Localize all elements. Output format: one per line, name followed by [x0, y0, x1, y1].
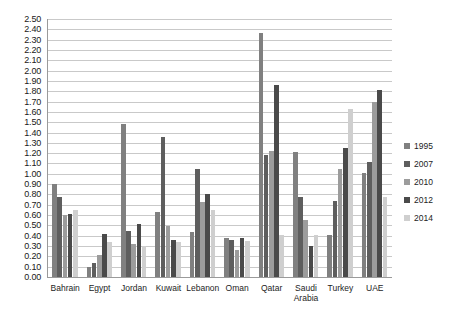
bar	[176, 242, 181, 277]
y-tick-label: 1.50	[24, 118, 41, 127]
legend-label: 2010	[414, 178, 433, 187]
bar	[166, 226, 171, 277]
bar-group	[48, 19, 82, 277]
bar	[348, 109, 353, 277]
legend-item[interactable]: 2012	[404, 191, 459, 209]
bar	[200, 202, 205, 277]
bar	[121, 124, 126, 277]
y-tick-label: 1.40	[24, 128, 41, 137]
y-tick-label: 0.50	[24, 221, 41, 230]
bar	[240, 238, 245, 277]
legend-item[interactable]: 2007	[404, 155, 459, 173]
legend-item[interactable]: 2010	[404, 173, 459, 191]
bar	[338, 169, 343, 277]
legend-swatch-icon	[404, 215, 410, 221]
bar-group	[323, 19, 357, 277]
bar-group	[358, 19, 392, 277]
y-tick-label: 1.70	[24, 97, 41, 106]
legend: 19952007201020122014	[404, 137, 459, 227]
gridline	[48, 277, 392, 278]
bar-group	[186, 19, 220, 277]
bar	[274, 85, 279, 277]
y-tick-label: 2.30	[24, 35, 41, 44]
bar	[314, 235, 319, 277]
x-axis-category-labels: BahrainEgyptJordanKuwaitLebanonOmanQatar…	[48, 283, 392, 319]
y-tick-label: 0.10	[24, 262, 41, 271]
y-tick-label: 2.00	[24, 66, 41, 75]
bar	[87, 267, 92, 277]
bar	[245, 241, 250, 277]
x-tick-label: Saudi Arabia	[289, 283, 323, 303]
y-tick-label: 1.60	[24, 107, 41, 116]
bar	[137, 224, 142, 277]
bar	[327, 235, 332, 277]
y-tick-label: 1.90	[24, 76, 41, 85]
bar	[102, 234, 107, 277]
y-tick-label: 0.30	[24, 242, 41, 251]
bar	[383, 197, 388, 277]
bar	[195, 169, 200, 277]
bar	[171, 240, 176, 277]
legend-item[interactable]: 1995	[404, 137, 459, 155]
bar	[303, 220, 308, 277]
bar	[372, 102, 377, 277]
legend-label: 2007	[414, 160, 433, 169]
bar-group	[289, 19, 323, 277]
y-tick-label: 0.70	[24, 200, 41, 209]
bar	[190, 232, 195, 277]
bar	[52, 184, 57, 277]
bar	[68, 214, 73, 277]
bar	[155, 212, 160, 277]
bar	[211, 210, 216, 277]
bar	[264, 155, 269, 277]
bars-layer	[48, 19, 392, 277]
legend-label: 2012	[414, 196, 433, 205]
bar	[309, 246, 314, 277]
y-axis-tick-labels: 2.502.402.302.202.102.001.901.801.701.60…	[0, 19, 44, 278]
bar	[142, 246, 147, 277]
bar	[279, 235, 284, 277]
bar	[269, 151, 274, 277]
bar	[205, 194, 210, 277]
bar-group	[117, 19, 151, 277]
bar	[367, 162, 372, 277]
y-tick-label: 0.00	[24, 273, 41, 282]
y-tick-label: 1.20	[24, 149, 41, 158]
bar	[333, 201, 338, 277]
bar	[63, 215, 68, 277]
bar	[73, 210, 78, 277]
x-tick-label: Lebanon	[186, 283, 220, 293]
legend-item[interactable]: 2014	[404, 209, 459, 227]
bar	[298, 197, 303, 277]
y-tick-label: 2.10	[24, 56, 41, 65]
bar	[362, 173, 367, 277]
y-tick-label: 0.80	[24, 190, 41, 199]
y-tick-label: 2.40	[24, 25, 41, 34]
legend-label: 1995	[414, 142, 433, 151]
legend-swatch-icon	[404, 197, 410, 203]
y-tick-label: 1.00	[24, 169, 41, 178]
bar	[259, 33, 264, 277]
legend-swatch-icon	[404, 143, 410, 149]
x-tick-label: Qatar	[254, 283, 288, 293]
bar-group	[82, 19, 116, 277]
x-tick-label: Egypt	[82, 283, 116, 293]
x-tick-label: Bahrain	[48, 283, 82, 293]
y-tick-label: 1.30	[24, 138, 41, 147]
x-tick-label: Oman	[220, 283, 254, 293]
bar	[293, 152, 298, 277]
x-tick-label: Jordan	[117, 283, 151, 293]
bar-group	[151, 19, 185, 277]
bar	[107, 242, 112, 277]
legend-label: 2014	[414, 214, 433, 223]
bar	[224, 238, 229, 277]
bar	[235, 250, 240, 277]
bar	[97, 255, 102, 277]
bar-chart: 2.502.402.302.202.102.001.901.801.701.60…	[0, 0, 461, 323]
bar	[343, 148, 348, 277]
bar	[229, 240, 234, 277]
x-tick-label: Kuwait	[151, 283, 185, 293]
y-tick-label: 0.20	[24, 252, 41, 261]
y-tick-label: 1.10	[24, 159, 41, 168]
y-tick-label: 0.90	[24, 180, 41, 189]
